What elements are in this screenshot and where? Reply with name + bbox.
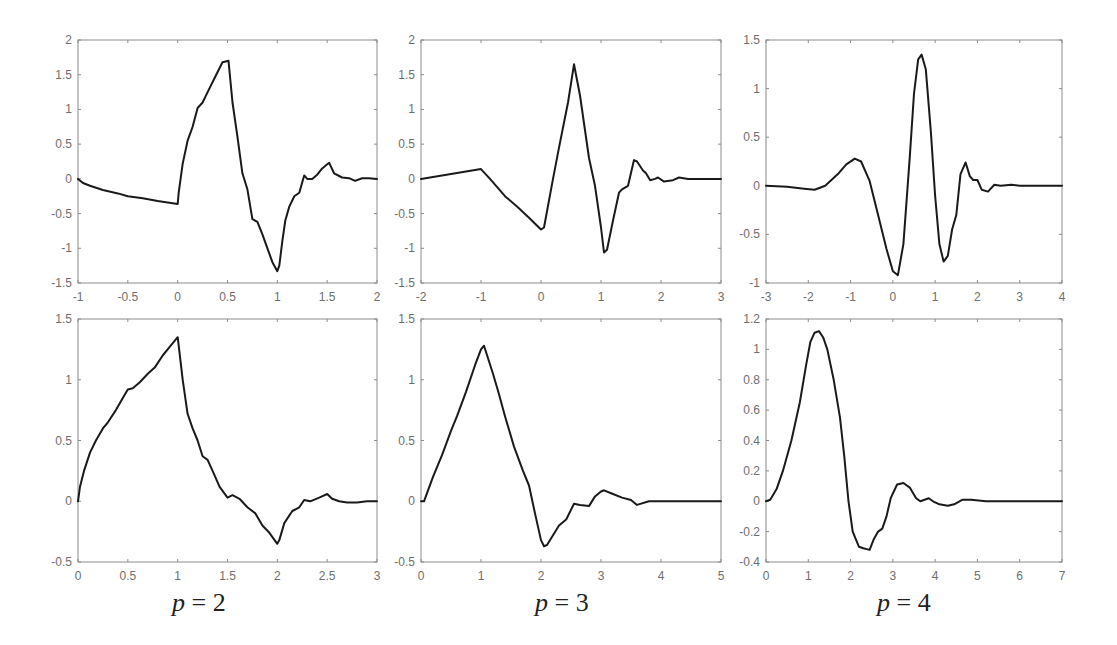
caption-p4: p = 4 (877, 588, 931, 618)
caption-p2-var: p (172, 588, 185, 617)
plot-bottom-left: 00.511.522.53-0.500.511.5 (51, 312, 380, 583)
x-tick-label: 3 (374, 569, 381, 583)
y-tick-label: 0 (408, 172, 415, 186)
x-tick-label: -1 (476, 290, 487, 304)
x-tick-label: 1 (478, 569, 485, 583)
y-tick-label: 1 (408, 102, 415, 116)
plot-frame (421, 40, 721, 283)
x-tick-label: -1 (73, 290, 84, 304)
figure-canvas: -1-0.500.511.52-1.5-1-0.500.511.52-2-101… (0, 0, 1117, 645)
y-tick-label: 2 (65, 33, 72, 47)
y-tick-label: 1 (753, 342, 760, 356)
x-tick-label: 4 (932, 569, 939, 583)
data-line (421, 64, 721, 252)
plot-frame (766, 319, 1062, 562)
caption-p2: p = 2 (172, 588, 226, 618)
x-tick-label: 6 (1016, 569, 1023, 583)
x-tick-label: 0 (174, 290, 181, 304)
y-tick-label: 0 (408, 494, 415, 508)
caption-p4-eq: = (897, 588, 912, 617)
plot-top-right: -3-2-101234-1-0.500.511.5 (739, 33, 1065, 304)
x-tick-label: -2 (803, 290, 814, 304)
x-tick-label: -0.5 (117, 290, 138, 304)
x-tick-label: 2 (538, 569, 545, 583)
y-tick-label: 1.2 (743, 312, 760, 326)
y-tick-label: 0.5 (55, 434, 72, 448)
x-tick-label: 2 (847, 569, 854, 583)
caption-p2-val: 2 (213, 588, 226, 617)
x-tick-label: 1 (274, 290, 281, 304)
data-line (766, 55, 1062, 276)
caption-p3-val: 3 (576, 588, 589, 617)
x-tick-label: 0.5 (219, 290, 236, 304)
x-tick-label: 1 (598, 290, 605, 304)
data-line (78, 61, 377, 271)
x-tick-label: 0 (890, 290, 897, 304)
plot-top-middle: -2-10123-1.5-1-0.500.511.52 (394, 33, 724, 304)
x-tick-label: 0 (763, 569, 770, 583)
caption-p3-var: p (535, 588, 548, 617)
plot-top-left: -1-0.500.511.52-1.5-1-0.500.511.52 (51, 33, 380, 304)
caption-p3-eq: = (555, 588, 570, 617)
y-tick-label: -0.5 (739, 227, 760, 241)
x-tick-label: 2 (658, 290, 665, 304)
y-tick-label: 0.5 (398, 137, 415, 151)
y-tick-label: 1.5 (55, 312, 72, 326)
y-tick-label: 0 (753, 494, 760, 508)
caption-p2-eq: = (192, 588, 207, 617)
plot-frame (766, 40, 1062, 283)
y-tick-label: -1.5 (51, 276, 72, 290)
x-tick-label: 5 (974, 569, 981, 583)
x-tick-label: 0 (538, 290, 545, 304)
x-tick-label: 0.5 (119, 569, 136, 583)
y-tick-label: 0.5 (398, 434, 415, 448)
y-tick-label: -0.5 (394, 555, 415, 569)
data-line (78, 337, 377, 544)
x-tick-label: -3 (761, 290, 772, 304)
caption-p4-var: p (877, 588, 890, 617)
x-tick-label: 0 (75, 569, 82, 583)
y-tick-label: -1.5 (394, 276, 415, 290)
caption-p3: p = 3 (535, 588, 589, 618)
x-tick-label: 3 (890, 569, 897, 583)
y-tick-label: 1 (65, 373, 72, 387)
y-tick-label: -1 (61, 241, 72, 255)
x-tick-label: 2 (974, 290, 981, 304)
y-tick-label: 1 (65, 102, 72, 116)
x-tick-label: 0 (418, 569, 425, 583)
x-tick-label: 1 (174, 569, 181, 583)
y-tick-label: -0.5 (394, 207, 415, 221)
y-tick-label: -1 (404, 241, 415, 255)
x-tick-label: 1.5 (219, 569, 236, 583)
x-tick-label: -1 (845, 290, 856, 304)
y-tick-label: -0.2 (739, 525, 760, 539)
x-tick-label: 1 (932, 290, 939, 304)
plot-frame (78, 319, 377, 562)
x-tick-label: 1 (805, 569, 812, 583)
y-tick-label: -0.5 (51, 555, 72, 569)
y-tick-label: 0 (753, 179, 760, 193)
x-tick-label: -2 (416, 290, 427, 304)
x-tick-label: 4 (658, 569, 665, 583)
x-tick-label: 3 (718, 290, 725, 304)
y-tick-label: 1.5 (398, 312, 415, 326)
caption-p4-val: 4 (918, 588, 931, 617)
y-tick-label: 1.5 (743, 33, 760, 47)
y-tick-label: -0.5 (51, 207, 72, 221)
x-tick-label: 5 (718, 569, 725, 583)
y-tick-label: 0.4 (743, 434, 760, 448)
y-tick-label: -1 (749, 276, 760, 290)
plot-frame (421, 319, 721, 562)
x-tick-label: 3 (598, 569, 605, 583)
y-tick-label: 0 (65, 494, 72, 508)
x-tick-label: 1.5 (319, 290, 336, 304)
y-tick-label: 1.5 (55, 68, 72, 82)
x-tick-label: 2.5 (319, 569, 336, 583)
y-tick-label: 0.6 (743, 403, 760, 417)
x-tick-label: 4 (1059, 290, 1066, 304)
x-tick-label: 2 (374, 290, 381, 304)
y-tick-label: 1 (408, 373, 415, 387)
x-tick-label: 3 (1016, 290, 1023, 304)
y-tick-label: 0.5 (55, 137, 72, 151)
data-line (766, 331, 1062, 550)
